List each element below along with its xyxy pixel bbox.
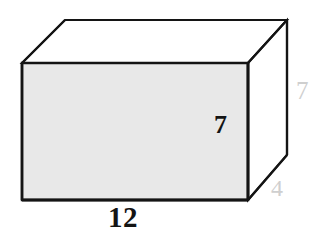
- dimension-label-height-side: 7: [296, 78, 309, 103]
- rectangular-prism-drawing: [0, 0, 315, 241]
- dimension-label-depth: 4: [271, 176, 283, 200]
- top-face: [22, 20, 287, 63]
- rectangular-prism-figure: 12 7 7 4: [0, 0, 315, 241]
- dimension-label-height-front: 7: [214, 112, 227, 138]
- dimension-label-length: 12: [108, 203, 138, 232]
